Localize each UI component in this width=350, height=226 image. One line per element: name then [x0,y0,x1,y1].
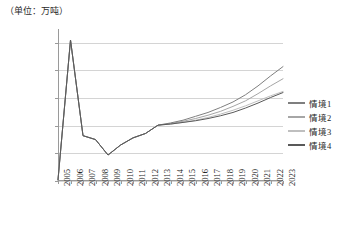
legend-swatch-icon [288,102,305,104]
legend-item[interactable]: 情境4 [288,138,350,152]
x-tick-mark [208,181,209,184]
x-tick-label: 2023 [287,169,297,186]
y-axis-unit-label: （单位：万吨） [5,4,68,17]
x-tick-mark [71,181,72,184]
series-line [58,40,283,180]
legend-swatch-icon [288,130,305,132]
x-tick-mark [96,181,97,184]
x-tick-mark [233,181,234,184]
x-tick-mark [171,181,172,184]
x-tick-mark [183,181,184,184]
x-tick-mark [271,181,272,184]
x-tick-mark [83,181,84,184]
series-line [58,40,283,180]
legend-item[interactable]: 情境3 [288,124,350,138]
legend-swatch-icon [288,116,305,118]
x-tick-mark [196,181,197,184]
series-line [58,40,283,180]
x-tick-mark [246,181,247,184]
x-tick-mark [158,181,159,184]
x-tick-mark [258,181,259,184]
legend-swatch-icon [288,144,305,146]
legend-label: 情境2 [309,111,331,123]
x-tick-mark [283,181,284,184]
legend-label: 情境3 [309,125,331,137]
legend-label: 情境4 [309,139,331,151]
x-tick-mark [108,181,109,184]
plot-area: 590000640000690000740000790000840000 200… [58,29,283,181]
line-chart: （单位：万吨） 59000064000069000074000079000084… [0,0,350,226]
legend: 情境1情境2情境3情境4 [288,96,350,152]
series-lines [58,29,283,181]
x-tick-mark [121,181,122,184]
legend-item[interactable]: 情境2 [288,110,350,124]
x-tick-mark [58,181,59,184]
legend-label: 情境1 [309,97,331,109]
legend-item[interactable]: 情境1 [288,96,350,110]
x-tick-mark [133,181,134,184]
series-line [58,40,283,180]
x-tick-mark [146,181,147,184]
x-tick-mark [221,181,222,184]
